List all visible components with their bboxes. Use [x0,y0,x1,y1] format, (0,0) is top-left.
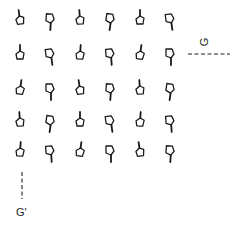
glyph-grid [15,10,176,163]
glyph-stem-up [75,80,85,95]
glyph-stem-up [76,45,85,60]
glyph-stem-down [106,49,115,66]
glyph-stem-down [46,84,54,100]
glyph-stem-up [135,142,145,157]
glyph-stem-up [135,80,144,95]
glyph-stem-up [135,45,145,60]
glyph-stem-up [15,112,24,127]
glyph-stem-down [105,14,115,31]
glyph-stem-down [45,116,55,133]
glyph-stem-down [166,116,175,133]
g-axis-label: G [198,38,210,47]
glyph-stem-down [105,116,115,133]
glyph-stem-up [76,112,84,126]
glyph-stem-up [16,142,25,157]
pentagon-grid-diagram [0,0,241,227]
glyph-stem-down [165,146,174,163]
glyph-stem-down [165,84,175,101]
glyph-stem-down [105,84,114,101]
glyph-stem-down [45,14,54,31]
glyph-stem-down [45,49,55,66]
glyph-stem-up [15,80,25,95]
glyph-stem-down [106,146,114,162]
glyph-stem-up [75,10,84,25]
glyph-stem-up [16,45,24,59]
glyph-stem-down [165,14,175,31]
glyph-stem-down [166,49,174,65]
glyph-stem-down [46,146,55,163]
glyph-stem-up [15,10,25,25]
glyph-stem-up [136,10,144,24]
glyph-stem-up [75,142,85,157]
glyph-stem-up [136,112,145,127]
g-prime-axis-label: G' [16,206,27,218]
